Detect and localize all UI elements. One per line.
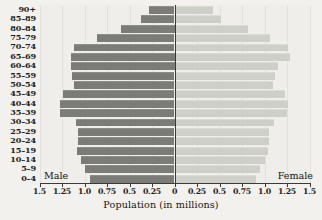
- bar-male: [149, 6, 174, 14]
- bar-male: [97, 34, 174, 42]
- bar-female: [176, 6, 214, 14]
- bar-male: [74, 44, 175, 52]
- bar-female: [176, 53, 290, 61]
- bar-male: [71, 53, 175, 61]
- y-axis-tick-label: 30–34: [0, 117, 36, 126]
- y-axis-tick-label: 35–39: [0, 108, 36, 117]
- bar-female: [176, 62, 279, 70]
- plot-area: [40, 5, 310, 183]
- bar-female: [176, 156, 265, 164]
- y-axis-tick-label: 70–74: [0, 42, 36, 51]
- y-axis-tick-label: 5–9: [0, 164, 36, 173]
- bar-female: [176, 137, 270, 145]
- bar-female: [176, 44, 289, 52]
- bar-male: [63, 90, 175, 98]
- series-label-male: Male: [44, 170, 68, 181]
- y-axis-tick-label: 45–49: [0, 89, 36, 98]
- y-axis-tick-label: 20–24: [0, 136, 36, 145]
- chart-title: [0, 0, 322, 2]
- bar-male: [60, 100, 174, 108]
- bar-male: [72, 72, 175, 80]
- bar-female: [176, 100, 289, 108]
- bar-female: [176, 15, 221, 23]
- series-label-female: Female: [278, 170, 313, 181]
- y-axis-tick-labels: 0–45–910–1415–1920–2425–2930–3435–3940–4…: [0, 5, 36, 183]
- y-axis-tick-label: 80–84: [0, 24, 36, 33]
- bar-female: [176, 34, 271, 42]
- y-axis-tick-label: 10–14: [0, 155, 36, 164]
- bar-female: [176, 109, 288, 117]
- bar-male: [141, 15, 174, 23]
- x-axis-title: Population (in millions): [0, 199, 322, 210]
- bar-male: [76, 119, 175, 127]
- y-axis-tick-label: 25–29: [0, 127, 36, 136]
- bar-female: [176, 119, 274, 127]
- bar-male: [90, 175, 175, 183]
- y-axis-tick-label: 85–89: [0, 14, 36, 23]
- bar-male: [60, 109, 174, 117]
- y-axis-tick-label: 0–4: [0, 174, 36, 183]
- bar-male: [71, 62, 175, 70]
- bar-female: [176, 147, 269, 155]
- bar-female: [176, 81, 273, 89]
- bar-male: [74, 81, 175, 89]
- bar-male: [77, 147, 174, 155]
- y-axis-tick-label: 50–54: [0, 80, 36, 89]
- y-axis-tick-label: 60–64: [0, 61, 36, 70]
- bar-male: [78, 128, 174, 136]
- y-axis-tick-label: 65–69: [0, 52, 36, 61]
- bar-male: [85, 165, 174, 173]
- bar-female: [176, 128, 270, 136]
- bar-female: [176, 25, 248, 33]
- y-axis-tick-label: 55–59: [0, 71, 36, 80]
- zero-axis-line: [175, 5, 176, 183]
- y-axis-tick-label: 15–19: [0, 146, 36, 155]
- bar-male: [121, 25, 175, 33]
- y-axis-tick-label: 40–44: [0, 99, 36, 108]
- bar-male: [78, 137, 174, 145]
- bar-female: [176, 165, 261, 173]
- population-pyramid-chart: 0–45–910–1415–1920–2425–2930–3435–3940–4…: [0, 0, 322, 220]
- grid-line: [310, 5, 311, 183]
- x-axis-tick-label: 1.5: [290, 187, 322, 196]
- bar-female: [176, 175, 256, 183]
- y-axis-tick-label: 90+: [0, 5, 36, 14]
- bar-female: [176, 72, 275, 80]
- bar-female: [176, 90, 286, 98]
- y-axis-tick-label: 75–79: [0, 33, 36, 42]
- bar-male: [81, 156, 175, 164]
